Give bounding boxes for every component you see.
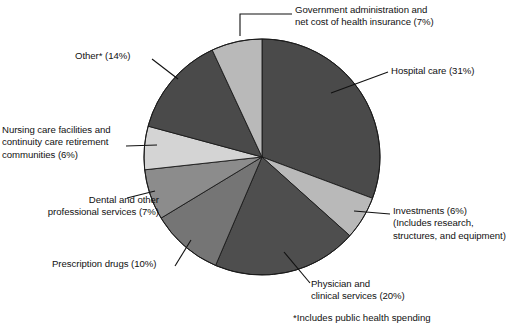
slice-label-line: Dental and other: [89, 194, 159, 205]
slice-label-line: Physician and: [311, 278, 370, 289]
slice-label-line: (Includes research,: [393, 217, 474, 228]
slice-label-line: net cost of health insurance (7%): [295, 16, 434, 27]
slice-label-nursing-care-facilities: Nursing care facilities andcontinuity ca…: [2, 124, 160, 161]
slice-label-line: Government administration and: [295, 4, 427, 15]
slice-label-line: structures, and equipment): [393, 230, 506, 241]
slice-label-dental-and-other-professional-services: Dental and otherprofessional services (7…: [4, 194, 159, 219]
slice-label-line: Investments (6%): [393, 205, 467, 216]
pie-slices: [144, 39, 380, 275]
slice-label-line: communities (6%): [2, 149, 78, 160]
leader-line-government-administration: [240, 14, 292, 36]
slice-label-line: Nursing care facilities and: [2, 124, 111, 135]
slice-label-government-administration: Government administration andnet cost of…: [295, 4, 510, 29]
slice-label-line: clinical services (20%): [311, 290, 405, 301]
chart-footnote: *Includes public health spending: [293, 312, 431, 324]
slice-label-other: Other* (14%): [75, 50, 175, 62]
slice-label-physician-and-clinical-services: Physician andclinical services (20%): [311, 278, 461, 303]
slice-label-hospital-care: Hospital care (31%): [391, 65, 513, 77]
slice-label-prescription-drugs: Prescription drugs (10%): [52, 258, 184, 270]
slice-label-line: professional services (7%): [48, 206, 159, 217]
slice-label-investments: Investments (6%)(Includes research,struc…: [393, 205, 515, 242]
slice-label-line: continuity care retirement: [2, 136, 108, 147]
